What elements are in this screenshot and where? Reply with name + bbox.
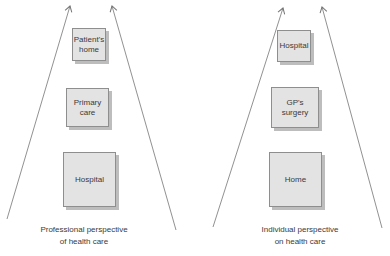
box-hospital-professional: Hospital [63, 152, 116, 207]
box-home: Home [269, 152, 322, 207]
box-patients-home: Patient's home [72, 28, 106, 61]
box-hospital-individual: Hospital [277, 30, 311, 62]
individual-perspective-caption: Individual perspective on health care [225, 224, 375, 248]
box-gps-surgery: GP's surgery [271, 87, 319, 128]
left-funnel-right-up-arrow-icon [112, 6, 176, 230]
left-funnel-left-up-arrow-icon [7, 6, 70, 219]
health-care-perspectives-figure: Patient's home Primary care Hospital Pro… [0, 0, 390, 256]
right-funnel-right-up-arrow-icon [322, 7, 382, 228]
box-primary-care: Primary care [66, 88, 109, 127]
arrows-layer [0, 0, 390, 256]
professional-perspective-caption: Professional perspective of health care [9, 224, 159, 248]
